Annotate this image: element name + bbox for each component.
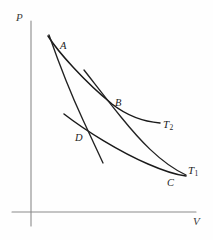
pv-diagram-figure: P V A B C D T2 T1 <box>0 0 213 240</box>
isotherm-t1-label: T1 <box>188 165 198 178</box>
isotherm-t2-label: T2 <box>163 119 173 132</box>
diagram-canvas <box>0 0 213 240</box>
point-label-d: D <box>75 133 83 144</box>
x-axis-label: V <box>193 216 200 227</box>
isotherm-t2-label-subscript: 2 <box>169 123 173 132</box>
y-axis-label: P <box>16 12 23 23</box>
point-label-a: A <box>60 41 66 52</box>
point-label-b: B <box>115 98 121 109</box>
adiabat-a-d-curve <box>49 35 103 163</box>
point-label-c: C <box>167 178 174 189</box>
isotherm-t1-label-subscript: 1 <box>194 169 198 178</box>
